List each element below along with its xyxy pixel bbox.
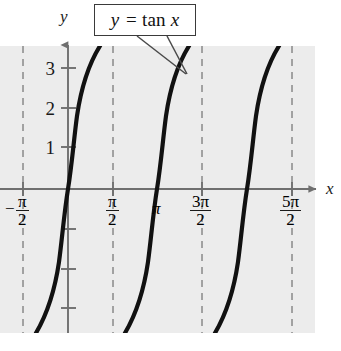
callout-y: y: [111, 9, 120, 30]
x-tick-label-5pi-over-2-numerator: 5π: [280, 193, 301, 210]
x-tick-label--pi-over-2-denominator: 2: [16, 210, 29, 228]
y-axis-label: y: [60, 8, 68, 25]
x-tick-label-3pi-over-2-numerator: 3π: [190, 193, 211, 210]
y-tick-label-3: 3: [33, 59, 55, 78]
callout-tan: tan: [142, 9, 166, 30]
callout-equals: =: [126, 9, 137, 30]
x-tick-label-pi-over-2-denominator: 2: [106, 210, 119, 228]
equation-callout-text: y = tan x: [111, 9, 180, 31]
x-tick-label-5pi-over-2-denominator: 2: [280, 210, 301, 228]
equation-callout-box: y = tan x: [94, 4, 196, 36]
tangent-function-figure: y = tan x y x 3 2 1 − π 2 π 2 π 3π 2 5π …: [0, 0, 341, 351]
x-tick-label-pi-over-2: π 2: [106, 193, 119, 229]
x-tick-label-5pi-over-2: 5π 2: [280, 193, 301, 229]
callout-x: x: [171, 9, 180, 30]
y-tick-label-1: 1: [33, 138, 55, 157]
x-tick-label-3pi-over-2: 3π 2: [190, 193, 211, 229]
x-tick-label-pi-over-2-numerator: π: [106, 193, 119, 210]
x-axis-label: x: [326, 180, 334, 197]
x-tick-label--pi-over-2-numerator: π: [16, 193, 29, 210]
x-tick-label--pi-over-2-sign: −: [5, 199, 15, 219]
x-tick-label-pi: π: [152, 199, 161, 219]
plot-canvas: [0, 0, 341, 351]
x-tick-label-3pi-over-2-denominator: 2: [190, 210, 211, 228]
y-tick-label-2: 2: [33, 99, 55, 118]
x-tick-label--pi-over-2: π 2: [16, 193, 29, 229]
